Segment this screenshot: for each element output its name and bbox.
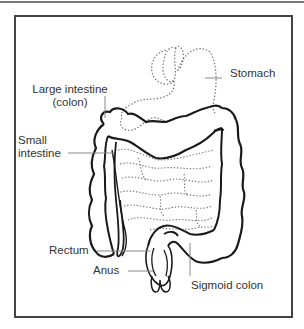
stomach-outline — [163, 46, 216, 113]
rectum-inner — [152, 248, 167, 276]
sigmoid-curl — [164, 232, 178, 236]
descending-colon-inner — [214, 128, 222, 230]
label-large-intestine: Large intestine (colon) — [24, 83, 116, 109]
descending-colon-outer — [222, 120, 244, 258]
label-small-intestine: Small intestine — [18, 134, 61, 160]
label-large-intestine-line1: Large intestine — [24, 83, 116, 96]
label-sigmoid-colon: Sigmoid colon — [191, 279, 263, 292]
label-stomach: Stomach — [230, 67, 275, 80]
label-large-intestine-line2: (colon) — [24, 96, 116, 109]
anus-outline — [151, 276, 170, 292]
label-small-intestine-line1: Small — [18, 134, 61, 147]
duodenum-outline — [120, 118, 170, 131]
label-rectum: Rectum — [49, 244, 89, 257]
stomach-body — [121, 50, 174, 118]
small-intestine-coils — [118, 149, 214, 230]
transverse-colon-inner — [108, 128, 222, 159]
rectum-outline — [146, 246, 172, 286]
label-small-intestine-line2: intestine — [18, 147, 61, 160]
sigmoid-colon-inner — [148, 226, 214, 246]
sigmoid-colon-outer — [168, 242, 222, 263]
label-anus: Anus — [93, 264, 119, 277]
